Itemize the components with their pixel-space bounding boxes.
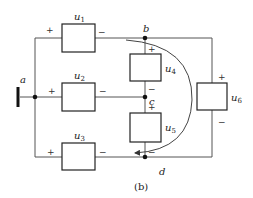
node-label-c: c xyxy=(149,96,155,107)
element-u6-box xyxy=(197,83,227,110)
u4-plus: + xyxy=(148,44,156,54)
u6-plus: + xyxy=(218,72,226,82)
u4-minus: − xyxy=(148,84,156,94)
element-u4-box xyxy=(130,54,161,81)
node-dot-b xyxy=(143,36,148,41)
element-u1-box xyxy=(62,24,95,52)
u1-plus: + xyxy=(46,25,54,35)
circuit-svg: u1 u2 u3 u4 u5 u6 + − + − + − + − + − + … xyxy=(0,0,253,198)
node-label-a: a xyxy=(20,74,26,85)
u3-plus: + xyxy=(47,147,55,157)
u6-label: u6 xyxy=(231,92,242,105)
element-u3-box xyxy=(62,143,95,170)
node-dot-a xyxy=(33,95,38,100)
wires xyxy=(20,38,212,157)
u1-minus: − xyxy=(98,27,106,37)
u2-label: u2 xyxy=(74,70,85,83)
circuit-diagram: u1 u2 u3 u4 u5 u6 + − + − + − + − + − + … xyxy=(0,0,253,198)
u3-label: u3 xyxy=(74,130,85,143)
u4-label: u4 xyxy=(165,63,176,76)
element-u2-box xyxy=(62,83,95,111)
u2-minus: − xyxy=(99,86,107,96)
u5-label: u5 xyxy=(165,122,176,135)
u2-plus: + xyxy=(48,86,56,96)
u3-minus: − xyxy=(99,147,107,157)
node-dot-d xyxy=(143,155,148,160)
node-label-d: d xyxy=(159,166,165,177)
node-label-b: b xyxy=(143,23,149,34)
node-dot-c xyxy=(143,95,148,100)
u1-label: u1 xyxy=(74,11,85,24)
u6-minus: − xyxy=(218,117,226,127)
figure-caption: (b) xyxy=(134,181,148,192)
element-u5-box xyxy=(130,113,161,142)
u5-minus: − xyxy=(148,147,156,157)
